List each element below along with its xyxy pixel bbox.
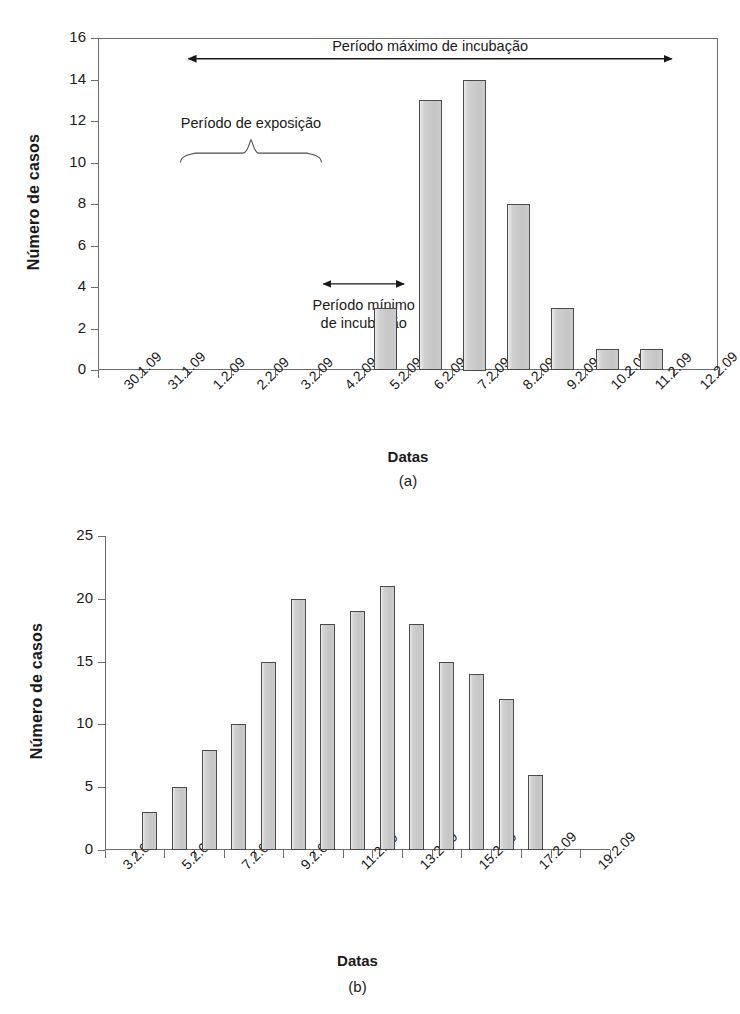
- bar: [291, 599, 306, 850]
- x-tick-mark: [580, 850, 581, 858]
- bar: [469, 674, 484, 850]
- x-tick-mark: [343, 850, 344, 858]
- bar: [499, 699, 514, 850]
- x-axis-title: Datas: [105, 952, 610, 969]
- y-tick-mark: [98, 599, 105, 600]
- y-tick-label: 25: [53, 527, 93, 542]
- y-tick-label: 5: [53, 778, 93, 793]
- bar: [172, 787, 187, 850]
- y-tick-mark: [98, 536, 105, 537]
- bar: [528, 775, 543, 850]
- annotation-overlay-a: [0, 0, 740, 500]
- y-tick-mark: [98, 724, 105, 725]
- x-tick-mark: [402, 850, 403, 858]
- y-tick-mark: [98, 662, 105, 663]
- panel-b: Número de casos Datas (b) 05101520253.2.…: [0, 500, 740, 1014]
- bar: [202, 750, 217, 850]
- x-tick-mark: [164, 850, 165, 858]
- x-tick-mark: [283, 850, 284, 858]
- panel-a: Número de casos Datas (a) Período máximo…: [0, 0, 740, 500]
- x-tick-mark: [521, 850, 522, 858]
- figure-page: Número de casos Datas (a) Período máximo…: [0, 0, 740, 1014]
- panel-label-b: (b): [105, 978, 610, 995]
- bar: [350, 611, 365, 850]
- bar: [231, 724, 246, 850]
- y-axis-title: Número de casos: [28, 611, 46, 771]
- y-tick-label: 10: [53, 715, 93, 730]
- bar: [261, 662, 276, 850]
- y-tick-mark: [98, 787, 105, 788]
- x-tick-mark: [105, 850, 106, 858]
- y-tick-label: 0: [53, 841, 93, 856]
- bar: [439, 662, 454, 850]
- bar: [142, 812, 157, 850]
- exposure-period-brace: [181, 140, 322, 163]
- y-tick-label: 20: [53, 590, 93, 605]
- axis-line-y: [105, 536, 106, 850]
- x-tick-mark: [461, 850, 462, 858]
- x-tick-mark: [224, 850, 225, 858]
- bar: [320, 624, 335, 850]
- bar: [409, 624, 424, 850]
- bar: [380, 586, 395, 850]
- y-tick-label: 15: [53, 653, 93, 668]
- y-tick-mark: [98, 850, 105, 851]
